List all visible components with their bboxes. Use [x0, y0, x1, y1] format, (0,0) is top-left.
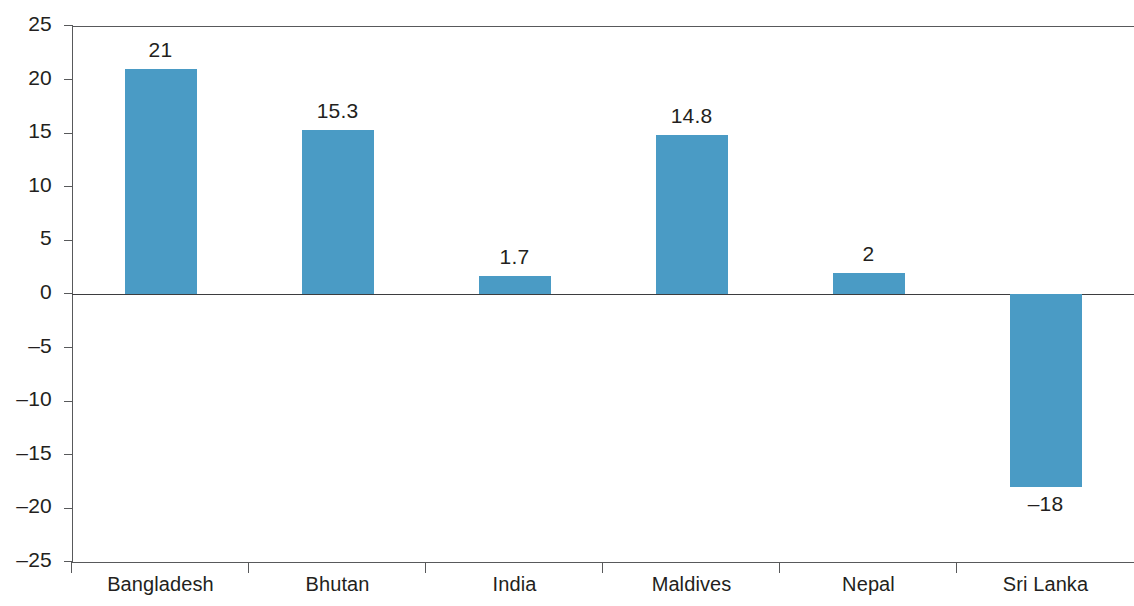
x-axis-category-label: Bhutan [249, 573, 426, 596]
bar-value-label: –18 [957, 492, 1134, 516]
x-axis-category-label: Sri Lanka [957, 573, 1134, 596]
y-axis-tick-label: 20 [0, 66, 52, 90]
bar-value-label: 1.7 [426, 245, 603, 269]
y-axis-tick-label: –25 [0, 548, 52, 572]
bar[interactable] [479, 276, 551, 294]
x-axis-tick [248, 562, 249, 573]
bar[interactable] [833, 273, 905, 294]
y-axis-tick-label: 10 [0, 173, 52, 197]
bar-value-label: 2 [780, 242, 957, 266]
x-axis-tick [602, 562, 603, 573]
y-axis-tick [64, 79, 73, 80]
y-axis-tick-label: 5 [0, 226, 52, 250]
y-axis-tick-label: 0 [0, 280, 52, 304]
y-axis-tick [64, 454, 73, 455]
x-axis-category-label: Bangladesh [72, 573, 249, 596]
x-axis-category-label: Maldives [603, 573, 780, 596]
x-axis-tick [71, 562, 72, 573]
y-axis-tick [64, 401, 73, 402]
y-axis-tick-label: –10 [0, 387, 52, 411]
y-axis-tick [64, 133, 73, 134]
x-axis-tick [956, 562, 957, 573]
y-axis-tick-label: 25 [0, 12, 52, 36]
y-axis-tick [64, 240, 73, 241]
bar[interactable] [302, 130, 374, 294]
x-axis-tick [779, 562, 780, 573]
x-axis-tick [425, 562, 426, 573]
bar[interactable] [656, 135, 728, 294]
y-axis-tick-label: 15 [0, 119, 52, 143]
x-axis-category-label: Nepal [780, 573, 957, 596]
y-axis-tick [64, 508, 73, 509]
y-axis-tick-label: –20 [0, 494, 52, 518]
bar-chart: 2520151050–5–10–15–20–25 BangladeshBhuta… [0, 0, 1134, 606]
y-axis-tick-label: –5 [0, 334, 52, 358]
y-axis-tick [64, 25, 73, 26]
y-axis-tick-label: –15 [0, 441, 52, 465]
bar-value-label: 15.3 [249, 99, 426, 123]
zero-baseline [72, 294, 1134, 295]
y-axis-tick [64, 293, 73, 294]
y-axis-tick [64, 186, 73, 187]
bar[interactable] [125, 69, 197, 294]
bar-value-label: 21 [72, 38, 249, 62]
plot-top-border [72, 26, 1134, 27]
bar[interactable] [1010, 294, 1082, 487]
x-axis-category-label: India [426, 573, 603, 596]
y-axis-tick [64, 347, 73, 348]
bar-value-label: 14.8 [603, 104, 780, 128]
